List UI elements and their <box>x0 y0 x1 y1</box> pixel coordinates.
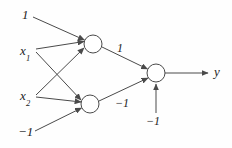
weight-label-hidden-1-to-output: 1 <box>117 42 123 54</box>
edge-x2-to-hidden-2 <box>36 97 81 102</box>
weight-label-output-bias: −1 <box>146 115 160 127</box>
input-label-x2-subscript: 2 <box>26 98 30 108</box>
weight-label-hidden-2-to-output: −1 <box>115 97 129 109</box>
edge-x1-to-hidden-1 <box>36 42 84 50</box>
input-label-x1-subscript: 1 <box>26 53 30 63</box>
edge-hidden-1-to-output <box>102 47 148 69</box>
input-label-bias-top: 1 <box>22 8 29 21</box>
node-hidden-2 <box>81 95 99 113</box>
node-output-1 <box>147 64 165 82</box>
edge-bias-top-to-hidden-1 <box>33 17 85 40</box>
output-label-y: y <box>214 65 220 78</box>
input-label-x2: x2 <box>20 89 30 105</box>
edge-x2-to-hidden-1 <box>36 48 84 95</box>
network-edges-canvas <box>0 0 232 148</box>
input-label-x1-base: x <box>20 43 26 58</box>
input-label-x1: x1 <box>20 44 30 60</box>
edge-x1-to-hidden-2 <box>36 52 81 100</box>
neural-network-diagram: 1 x1 x2 −1 1 −1 −1 y <box>0 0 232 148</box>
input-label-bias-bottom: −1 <box>18 125 33 138</box>
node-hidden-1 <box>84 35 102 53</box>
input-label-x2-base: x <box>20 88 26 103</box>
edge-bias-bottom-to-hidden-2 <box>35 108 82 131</box>
